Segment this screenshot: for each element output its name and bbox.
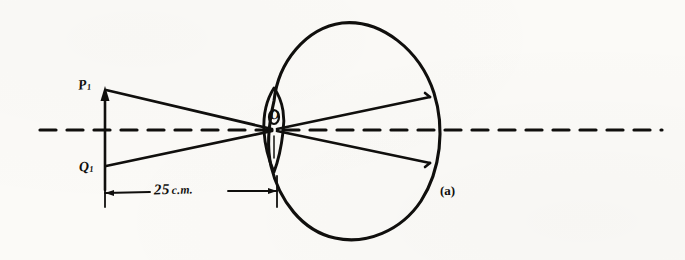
label-object-top: P1 [77, 77, 92, 92]
label-object-bottom: Q1 [79, 160, 94, 175]
dimension-tick-right-icon [268, 188, 277, 194]
optics-eye-figure: P1 Q1 O 25c.m. (a) [0, 0, 685, 260]
figure-canvas [0, 0, 685, 260]
dimension-tick-left-icon [105, 190, 114, 196]
label-part: (a) [440, 184, 455, 197]
label-dimension: 25c.m. [154, 181, 193, 197]
label-lens-center: O [269, 108, 280, 122]
arrowhead-icon [101, 86, 110, 101]
